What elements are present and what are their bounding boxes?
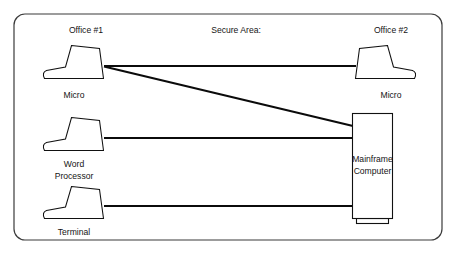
node-label-mainframe-line2: Computer bbox=[354, 166, 392, 176]
terminal-icon bbox=[356, 46, 416, 79]
node-label-office1-word-processor-line2: Processor bbox=[55, 171, 94, 181]
terminal-icon bbox=[43, 46, 103, 79]
link-micro-to-mainframe bbox=[104, 67, 353, 127]
zone-label-secure-area: Secure Area: bbox=[211, 25, 261, 35]
diagram-canvas: Micro Word Processor Terminal Micro Main… bbox=[0, 0, 456, 257]
node-label-office1-micro: Micro bbox=[63, 90, 84, 100]
node-office1-terminal[interactable]: Terminal bbox=[43, 187, 103, 238]
zone-labels: Office #1 Secure Area: Office #2 bbox=[69, 25, 408, 35]
zone-label-office-1: Office #1 bbox=[69, 25, 103, 35]
node-label-mainframe-line1: Mainframe bbox=[352, 154, 393, 164]
node-mainframe[interactable]: Mainframe Computer bbox=[352, 114, 393, 224]
zone-label-office-2: Office #2 bbox=[374, 25, 408, 35]
node-office1-micro[interactable]: Micro bbox=[43, 46, 103, 101]
connection-lines bbox=[104, 66, 356, 206]
terminal-icon bbox=[43, 118, 103, 151]
node-label-office2-micro: Micro bbox=[380, 90, 401, 100]
node-office1-word-processor[interactable]: Word Processor bbox=[43, 118, 103, 182]
network-diagram: Micro Word Processor Terminal Micro Main… bbox=[0, 0, 456, 257]
node-label-office1-word-processor-line1: Word bbox=[64, 159, 85, 169]
node-label-office1-terminal: Terminal bbox=[58, 227, 91, 237]
mainframe-base bbox=[357, 219, 389, 224]
node-office2-micro[interactable]: Micro bbox=[356, 46, 416, 101]
terminal-icon bbox=[43, 187, 103, 219]
